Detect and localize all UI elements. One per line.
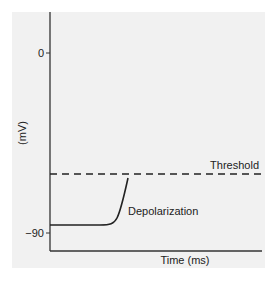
y-axis-label: (mV) [16,121,28,145]
threshold-label: Threshold [210,159,259,171]
depolarization-curve [50,178,128,225]
y-tick-label-0: 0 [38,47,44,59]
chart-svg: 0 −90 (mV) Threshold Depolarization Time… [0,0,275,281]
x-axis-label: Time (ms) [160,254,209,266]
depolarization-label: Depolarization [128,205,198,217]
y-tick-label-minus90: −90 [25,227,44,239]
